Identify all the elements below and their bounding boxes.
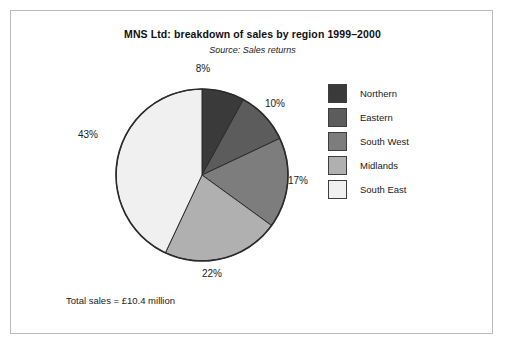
legend-item-label: South West — [360, 136, 409, 147]
legend-item-label: South East — [360, 184, 406, 195]
legend-item: Midlands — [328, 154, 409, 177]
pie-svg — [115, 88, 289, 262]
slice-label-south-west: 17% — [288, 175, 308, 186]
legend-swatch-icon — [328, 84, 347, 103]
chart-legend: NorthernEasternSouth WestMidlandsSouth E… — [328, 82, 409, 202]
slice-label-eastern: 10% — [265, 98, 285, 109]
slice-label-south-east: 43% — [78, 129, 98, 140]
legend-swatch-icon — [328, 108, 347, 127]
slice-label-northern: 8% — [196, 63, 210, 74]
legend-swatch-icon — [328, 132, 347, 151]
chart-subtitle: Source: Sales returns — [0, 45, 505, 55]
legend-swatch-icon — [328, 180, 347, 199]
legend-item-label: Northern — [360, 88, 397, 99]
slice-label-midlands: 22% — [202, 268, 222, 279]
legend-item-label: Midlands — [360, 160, 398, 171]
pie-graphic — [115, 88, 289, 262]
legend-item: Eastern — [328, 106, 409, 129]
total-sales-caption: Total sales = £10.4 million — [66, 295, 175, 306]
pie-chart-figure: MNS Ltd: breakdown of sales by region 19… — [0, 0, 505, 346]
legend-item: South East — [328, 178, 409, 201]
chart-title: MNS Ltd: breakdown of sales by region 19… — [0, 28, 505, 40]
legend-item: Northern — [328, 82, 409, 105]
legend-item: South West — [328, 130, 409, 153]
legend-swatch-icon — [328, 156, 347, 175]
legend-item-label: Eastern — [360, 112, 393, 123]
